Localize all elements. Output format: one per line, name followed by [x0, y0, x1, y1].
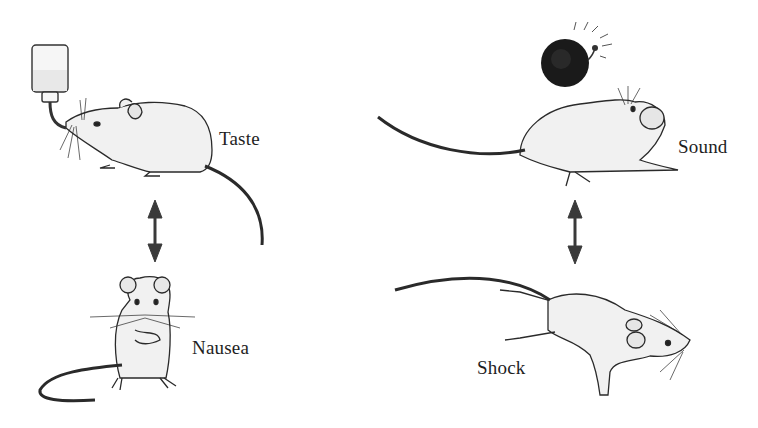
shock-rat-illustration — [395, 278, 690, 395]
nausea-label: Nausea — [192, 337, 249, 359]
sound-label: Sound — [678, 136, 728, 158]
diagram-drawing — [0, 0, 758, 428]
water-bottle-icon — [32, 45, 68, 128]
conditioning-diagram: Taste Nausea Sound Shock — [0, 0, 758, 428]
bidirectional-arrow-right — [568, 200, 582, 264]
bell-icon — [541, 22, 612, 87]
bidirectional-arrow-left — [148, 200, 162, 262]
shock-label: Shock — [477, 357, 526, 379]
sound-rat-illustration — [378, 86, 678, 186]
taste-rat-illustration — [60, 98, 262, 245]
taste-label: Taste — [219, 128, 260, 150]
nausea-rat-illustration — [40, 277, 195, 401]
